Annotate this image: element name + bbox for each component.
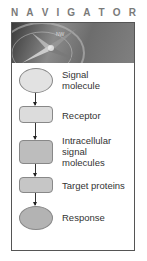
title-letter: A xyxy=(83,7,90,19)
receptor-node xyxy=(19,106,53,123)
navigator-panel: NW Signal molecule Receptor Intracellula… xyxy=(11,22,135,251)
label-line: molecules xyxy=(62,157,111,168)
intracellular-signal-molecules-node xyxy=(19,140,53,164)
svg-text:NW: NW xyxy=(56,31,65,37)
navigator-title: N A V I G A T O R xyxy=(11,7,136,19)
arrow-down-icon xyxy=(35,164,36,176)
response-label: Response xyxy=(62,212,105,223)
target-proteins-node xyxy=(19,177,53,193)
label-line: Intracellular xyxy=(62,135,111,146)
target-proteins-label: Target proteins xyxy=(62,180,125,191)
title-letter: N xyxy=(11,7,18,19)
label-line: molecule xyxy=(62,80,100,91)
title-letter: O xyxy=(113,7,121,19)
arrow-down-icon xyxy=(35,93,36,105)
receptor-label: Receptor xyxy=(62,110,101,121)
signal-molecule-label: Signal molecule xyxy=(62,69,100,91)
title-letter: V xyxy=(42,7,49,19)
label-line: Receptor xyxy=(62,110,101,121)
label-line: Signal xyxy=(62,69,100,80)
arrow-down-icon xyxy=(35,123,36,139)
title-letter: A xyxy=(26,7,33,19)
label-line: signal xyxy=(62,146,111,157)
compass-banner: NW xyxy=(12,23,134,63)
compass-icon: NW xyxy=(12,23,134,63)
response-node xyxy=(19,206,53,230)
title-letter: R xyxy=(129,7,136,19)
arrow-down-icon xyxy=(35,193,36,205)
label-line: Target proteins xyxy=(62,180,125,191)
label-line: Response xyxy=(62,212,105,223)
title-letter: G xyxy=(67,7,75,19)
title-letter: T xyxy=(99,7,105,19)
signal-molecule-node xyxy=(19,68,53,93)
intracellular-signal-molecules-label: Intracellular signal molecules xyxy=(62,135,111,168)
title-letter: I xyxy=(56,7,59,19)
